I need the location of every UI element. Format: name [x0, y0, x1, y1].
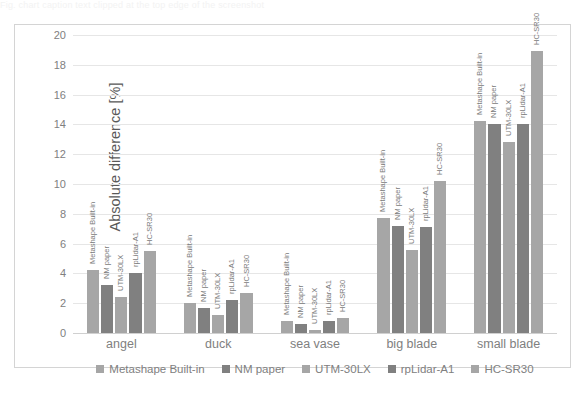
bar-groups: Metashape Built-inNM paperUTM-30LXrpLida…: [73, 35, 557, 333]
y-axis-tick: 0: [60, 327, 66, 339]
bar[interactable]: [323, 321, 335, 333]
bar-slot: rpLidar-A1: [129, 35, 141, 333]
chart-frame: Absolute difference [%] 2018161412108642…: [14, 24, 571, 368]
bar[interactable]: [406, 250, 418, 333]
legend-label: UTM-30LX: [315, 363, 371, 375]
bar-series-label: UTM-30LX: [505, 100, 513, 136]
x-axis-category-label: angel: [73, 337, 170, 351]
bar[interactable]: [226, 300, 238, 333]
bar-series-label: rpLidar-A1: [422, 186, 430, 221]
y-axis-tick: 6: [60, 238, 66, 250]
bar[interactable]: [517, 124, 529, 333]
bar[interactable]: [377, 218, 389, 333]
y-axis-tick: 4: [60, 267, 66, 279]
x-axis-category-label: duck: [170, 337, 267, 351]
bar-series-label: UTM-30LX: [408, 207, 416, 243]
bar-slot: Metashape Built-in: [474, 35, 486, 333]
bar-slot: HC-SR30: [531, 35, 543, 333]
legend-swatch-icon: [302, 365, 310, 373]
bar-slot: HC-SR30: [144, 35, 156, 333]
bar-slot: rpLidar-A1: [323, 35, 335, 333]
bar-series-label: UTM-30LX: [214, 273, 222, 309]
bar-slot: NM paper: [198, 35, 210, 333]
bar-slot: NM paper: [488, 35, 500, 333]
bar[interactable]: [474, 121, 486, 333]
legend-item[interactable]: UTM-30LX: [302, 363, 371, 375]
y-axis-tick: 18: [54, 59, 66, 71]
bar[interactable]: [212, 315, 224, 333]
x-axis-labels: angelducksea vasebig bladesmall blade: [73, 337, 557, 351]
bar-series-label: UTM-30LX: [117, 255, 125, 291]
bar[interactable]: [503, 142, 515, 333]
y-axis-tick: 16: [54, 89, 66, 101]
legend-swatch-icon: [222, 365, 230, 373]
bar-slot: UTM-30LX: [503, 35, 515, 333]
bar-slot: HC-SR30: [434, 35, 446, 333]
y-axis-tick: 12: [54, 148, 66, 160]
legend-item[interactable]: rpLidar-A1: [388, 363, 455, 375]
y-axis-tick: 10: [54, 178, 66, 190]
bar-series-label: Metashape Built-in: [379, 150, 387, 212]
legend-swatch-icon: [388, 365, 396, 373]
bar-series-label: HC-SR30: [533, 13, 541, 45]
bar-series-label: UTM-30LX: [311, 288, 319, 324]
bar-slot: rpLidar-A1: [517, 35, 529, 333]
bar[interactable]: [115, 297, 127, 333]
legend-label: rpLidar-A1: [401, 363, 455, 375]
bar-slot: NM paper: [101, 35, 113, 333]
chart-legend: Metashape Built-inNM paperUTM-30LXrpLida…: [73, 363, 557, 375]
bar-series-label: rpLidar-A1: [325, 280, 333, 315]
bar-series-label: HC-SR30: [436, 143, 444, 175]
bar-series-label: Metashape Built-in: [186, 235, 194, 297]
legend-item[interactable]: NM paper: [222, 363, 286, 375]
bar[interactable]: [309, 330, 321, 333]
bar-group: Metashape Built-inNM paperUTM-30LXrpLida…: [460, 35, 557, 333]
bar-slot: Metashape Built-in: [377, 35, 389, 333]
bar[interactable]: [295, 324, 307, 333]
bar[interactable]: [184, 303, 196, 333]
bar[interactable]: [434, 181, 446, 333]
plot-area: 20181614121086420 Metashape Built-inNM p…: [73, 35, 557, 333]
bar-series-label: NM paper: [103, 246, 111, 279]
bar[interactable]: [240, 293, 252, 333]
bar-slot: Metashape Built-in: [184, 35, 196, 333]
bar-chart: Fig. chart caption text clipped at the t…: [0, 0, 587, 409]
bar-slot: Metashape Built-in: [281, 35, 293, 333]
bar[interactable]: [101, 285, 113, 333]
legend-item[interactable]: HC-SR30: [471, 363, 533, 375]
bar-series-label: NM paper: [200, 269, 208, 302]
legend-label: HC-SR30: [484, 363, 533, 375]
legend-swatch-icon: [471, 365, 479, 373]
bar[interactable]: [420, 227, 432, 333]
bar-slot: NM paper: [392, 35, 404, 333]
bar-series-label: Metashape Built-in: [283, 253, 291, 315]
y-axis-tick: 14: [54, 118, 66, 130]
bar-series-label: HC-SR30: [243, 255, 251, 287]
bar-group: Metashape Built-inNM paperUTM-30LXrpLida…: [363, 35, 460, 333]
x-axis-category-label: big blade: [363, 337, 460, 351]
bar[interactable]: [129, 273, 141, 333]
legend-swatch-icon: [96, 365, 104, 373]
bar-series-label: HC-SR30: [339, 280, 347, 312]
bar[interactable]: [198, 308, 210, 333]
bar-series-label: NM paper: [490, 85, 498, 118]
bar-group: Metashape Built-inNM paperUTM-30LXrpLida…: [267, 35, 364, 333]
bar-slot: UTM-30LX: [406, 35, 418, 333]
bar-series-label: Metashape Built-in: [89, 202, 97, 264]
bar-series-label: NM paper: [297, 285, 305, 318]
bar[interactable]: [144, 251, 156, 333]
x-axis-category-label: sea vase: [267, 337, 364, 351]
bar[interactable]: [337, 318, 349, 333]
bar-series-label: rpLidar-A1: [132, 232, 140, 267]
bar-slot: NM paper: [295, 35, 307, 333]
bar[interactable]: [531, 51, 543, 333]
bar[interactable]: [488, 124, 500, 333]
bar-slot: HC-SR30: [337, 35, 349, 333]
legend-label: NM paper: [235, 363, 286, 375]
bar-slot: rpLidar-A1: [420, 35, 432, 333]
bar[interactable]: [87, 270, 99, 333]
bar[interactable]: [281, 321, 293, 333]
bar[interactable]: [392, 226, 404, 333]
legend-item[interactable]: Metashape Built-in: [96, 363, 204, 375]
y-axis-tick: 2: [60, 297, 66, 309]
